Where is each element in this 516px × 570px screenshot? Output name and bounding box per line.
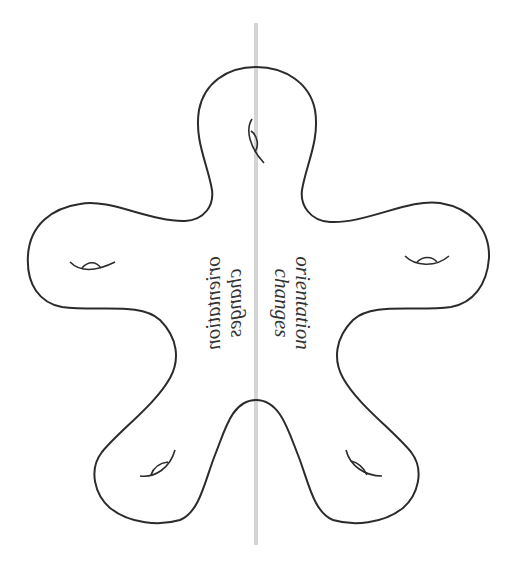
- right-handle: [405, 256, 449, 264]
- diagram-canvas: [0, 0, 516, 570]
- mirrored-label-line-2: changes: [224, 233, 245, 373]
- orientation-changes-label: orientation changes: [263, 233, 313, 373]
- bottom-right-handle: [346, 450, 382, 476]
- mirrored-label-line-1: orientation: [203, 233, 224, 373]
- surface-outline: [28, 67, 489, 523]
- left-handle: [70, 262, 115, 270]
- label-line-2: changes: [271, 233, 292, 373]
- mirror-line: [254, 23, 258, 545]
- label-line-1: orientation: [292, 233, 313, 373]
- bottom-left-handle: [140, 450, 175, 476]
- mirrored-orientation-changes-label: orientation changes: [203, 233, 253, 373]
